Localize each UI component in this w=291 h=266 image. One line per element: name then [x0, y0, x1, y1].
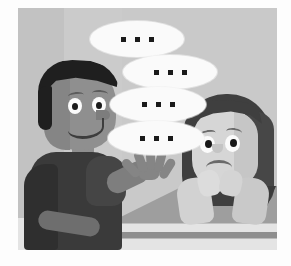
- boy-pupil-right: [96, 102, 102, 109]
- speech-bubble-1: [90, 21, 184, 57]
- dot: [182, 70, 187, 75]
- dot: [140, 136, 145, 141]
- boy-shirt-shadow: [24, 164, 58, 250]
- ellipsis-dots-4: [140, 136, 173, 141]
- ellipsis-dots-1: [121, 37, 154, 42]
- girl-pupil-left: [205, 140, 212, 148]
- boy-speaker: [24, 60, 144, 250]
- dot: [168, 136, 173, 141]
- speech-bubble-4: [108, 121, 204, 155]
- dot: [170, 102, 175, 107]
- dot: [135, 37, 140, 42]
- dot: [156, 102, 161, 107]
- illustration-root: [0, 0, 291, 266]
- dot: [142, 102, 147, 107]
- scene-canvas: [18, 8, 277, 250]
- dot: [154, 70, 159, 75]
- dot: [149, 37, 154, 42]
- ellipsis-dots-3: [142, 102, 175, 107]
- boy-sideburn: [38, 86, 52, 130]
- girl-pupil-right: [230, 139, 237, 147]
- dot: [121, 37, 126, 42]
- boy-pupil-left: [72, 103, 78, 110]
- dot: [154, 136, 159, 141]
- speech-bubble-3: [110, 87, 206, 122]
- dot: [168, 70, 173, 75]
- ellipsis-dots-2: [154, 70, 187, 75]
- speech-bubble-2: [123, 55, 217, 89]
